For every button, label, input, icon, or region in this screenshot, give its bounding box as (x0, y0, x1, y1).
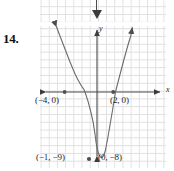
x-axis-label: x (166, 85, 170, 94)
point-vertex (87, 157, 91, 161)
down-arrow-icon (92, 10, 102, 19)
textbook-figure: 14. (0, 0, 174, 171)
point-x-intercept-left (63, 90, 67, 94)
problem-number: 14. (3, 31, 19, 47)
point-x-intercept-right (111, 90, 115, 94)
annotated-points (63, 90, 115, 161)
label-x-intercept-right: (2, 0) (110, 95, 129, 105)
cropped-grid-fragment-above (40, 0, 166, 22)
label-y-intercept: (0, −8) (98, 152, 122, 162)
label-x-intercept-left: (−4, 0) (35, 95, 59, 105)
y-axis-label: y (99, 24, 103, 33)
label-vertex: (−1, −9) (36, 152, 65, 162)
